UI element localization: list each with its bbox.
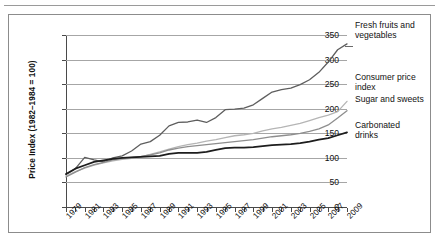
x-tick-label: 2009 — [346, 202, 365, 221]
series-line — [66, 111, 347, 177]
top-divider — [4, 5, 435, 6]
series-label-cpi-line2: index — [355, 83, 416, 93]
series-label-carbonated: Carbonated drinks — [355, 121, 400, 140]
series-label-carbonated-line2: drinks — [355, 131, 400, 141]
series-label-cpi: Consumer price index — [355, 73, 416, 92]
series-line — [66, 132, 347, 174]
series-line — [66, 101, 347, 176]
leader-fresh-fruits — [345, 46, 353, 47]
chart-figure: Price Index (1982–1984 = 100) 0501001502… — [0, 0, 439, 241]
y-axis-title: Price Index (1982–1984 = 100) — [28, 35, 37, 205]
series-label-fresh-fruits: Fresh fruits and vegetables — [355, 21, 415, 40]
series-label-sugar-line1: Sugar and sweets — [355, 95, 424, 105]
series-label-fresh-fruits-line2: vegetables — [355, 31, 415, 41]
series-line — [66, 44, 347, 175]
plot-area: 050100150200250300350 197919811983198519… — [66, 35, 347, 207]
chart-frame: Price Index (1982–1984 = 100) 0501001502… — [8, 14, 431, 233]
series-lines — [66, 35, 347, 208]
series-label-sugar: Sugar and sweets — [355, 95, 424, 105]
